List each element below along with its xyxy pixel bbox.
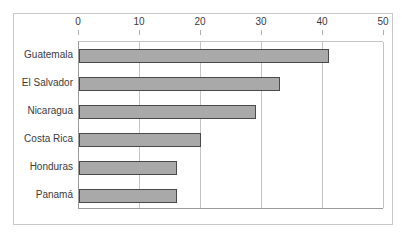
x-axis-tick-label: 40: [316, 16, 327, 28]
bar-row: [79, 182, 383, 210]
bar-row: [79, 154, 383, 182]
x-axis-ticks: 01020304050: [14, 14, 394, 41]
gridline: [383, 42, 384, 208]
bar-row: [79, 98, 383, 126]
x-axis-tick-label: 10: [133, 16, 144, 28]
category-label: Nicaragua: [0, 105, 73, 117]
category-label: Guatemala: [0, 49, 73, 61]
x-axis-tick-mark: [200, 30, 201, 35]
x-axis-tick-mark: [322, 30, 323, 35]
x-axis-tick-mark: [78, 30, 79, 35]
bar[interactable]: [79, 105, 256, 119]
bar[interactable]: [79, 49, 329, 63]
category-label: Costa Rica: [0, 133, 73, 145]
category-label: Honduras: [0, 161, 73, 173]
bar[interactable]: [79, 133, 201, 147]
bar-row: [79, 126, 383, 154]
plot-area: [78, 41, 383, 209]
category-label: Panamá: [0, 189, 73, 201]
bar[interactable]: [79, 77, 280, 91]
x-axis-tick-mark: [139, 30, 140, 35]
x-axis-tick-label: 50: [377, 16, 388, 28]
bar-row: [79, 70, 383, 98]
bar-chart-figure: 01020304050 GuatemalaEl SalvadorNicaragu…: [13, 13, 393, 225]
x-axis-tick-mark: [383, 30, 384, 35]
bar-row: [79, 42, 383, 70]
bar[interactable]: [79, 189, 177, 203]
x-axis-tick-label: 20: [194, 16, 205, 28]
x-axis-tick-label: 0: [75, 16, 81, 28]
x-axis-tick-mark: [261, 30, 262, 35]
bar[interactable]: [79, 161, 177, 175]
category-label: El Salvador: [0, 77, 73, 89]
x-axis-tick-label: 30: [255, 16, 266, 28]
